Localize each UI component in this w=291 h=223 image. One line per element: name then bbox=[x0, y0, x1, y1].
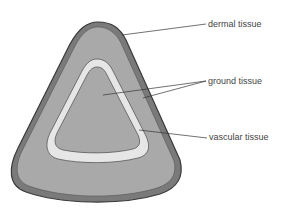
stem-cross-section-diagram: dermal tissue ground tissue vascular tis… bbox=[0, 0, 291, 223]
ground-tissue-label: ground tissue bbox=[208, 76, 262, 86]
ground-leader-line-outer bbox=[143, 81, 206, 98]
dermal-tissue-label: dermal tissue bbox=[208, 19, 262, 29]
vascular-tissue-label: vascular tissue bbox=[209, 132, 269, 142]
dermal-leader-line bbox=[122, 24, 206, 35]
